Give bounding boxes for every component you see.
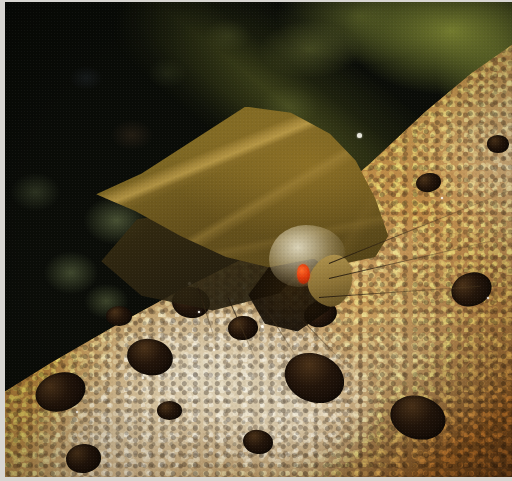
moth [5, 2, 512, 477]
wing-apex-droplet [357, 133, 362, 138]
photograph-frame: Macro nature photograph of a triangular-… [0, 0, 512, 481]
moth-leg [228, 297, 256, 358]
photograph-image [5, 2, 512, 477]
